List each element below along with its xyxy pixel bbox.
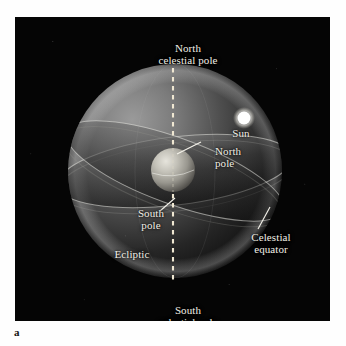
sun-disc — [233, 107, 255, 129]
figure-caption-letter: a — [14, 326, 20, 338]
earth-globe — [151, 148, 195, 192]
figure-root: North celestial pole Sun North pole Sout… — [0, 0, 346, 346]
celestial-sphere-scene — [15, 17, 330, 321]
celestial-sphere-illustration-panel: North celestial pole Sun North pole Sout… — [15, 17, 330, 321]
